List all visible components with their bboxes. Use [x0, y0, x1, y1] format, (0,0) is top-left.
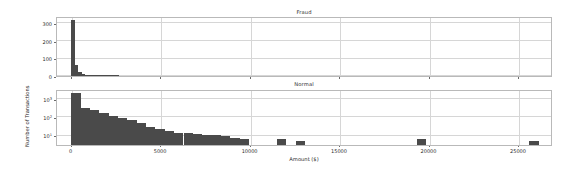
normal-ytick-label: 103 [30, 97, 52, 104]
histogram-bar [155, 129, 164, 145]
fraud-gridline-v [161, 18, 162, 76]
normal-axes [56, 90, 552, 146]
normal-xtick-label: 5000 [154, 148, 167, 154]
fraud-ytick-label: 300 [34, 21, 52, 27]
fraud-gridline-h [57, 75, 551, 76]
normal-xtick-mark [339, 146, 340, 148]
normal-xtick-mark [160, 146, 161, 148]
histogram-bar [212, 135, 221, 144]
fraud-gridline-v [340, 18, 341, 76]
fraud-gridline-h [57, 40, 551, 41]
fraud-gridline-h [57, 22, 551, 23]
fraud-gridline-v [251, 18, 252, 76]
histogram-bar [118, 118, 127, 145]
normal-xtick-label: 10000 [242, 148, 258, 154]
x-axis-label: Amount ($) [289, 156, 318, 162]
fraud-ytick-mark [54, 42, 56, 43]
histogram-figure: Fraud 0 100 200 300 Normal [0, 0, 567, 170]
histogram-bar [90, 110, 99, 144]
fraud-xtick-mark [339, 77, 340, 79]
normal-xtick-mark [71, 146, 72, 148]
fraud-axes [56, 17, 552, 77]
histogram-bar [137, 123, 146, 145]
histogram-bar [109, 116, 118, 145]
fraud-ytick-label: 200 [34, 39, 52, 45]
fraud-xtick-mark [71, 77, 72, 79]
fraud-subplot-title: Fraud [56, 9, 552, 15]
normal-xtick-label: 0 [69, 148, 72, 154]
fraud-ytick-mark [54, 59, 56, 60]
histogram-bar [81, 108, 90, 145]
histogram-bar [417, 139, 426, 144]
normal-gridline-h [57, 98, 551, 99]
normal-xtick-mark [518, 146, 519, 148]
normal-xtick-label: 20000 [421, 148, 437, 154]
histogram-bar [221, 136, 230, 145]
histogram-bar [99, 113, 108, 145]
fraud-gridline-h [57, 58, 551, 59]
normal-xtick-label: 15000 [331, 148, 347, 154]
normal-ytick-label: 101 [30, 133, 52, 140]
histogram-bar [146, 127, 155, 145]
fraud-xtick-mark [250, 77, 251, 79]
histogram-bar [202, 135, 211, 144]
histogram-bar [529, 141, 538, 145]
histogram-bar [277, 139, 286, 144]
histogram-bar [240, 139, 249, 144]
histogram-bar [296, 141, 305, 145]
histogram-bar [116, 75, 119, 76]
histogram-bar [71, 93, 80, 145]
fraud-gridline-v [519, 18, 520, 76]
fraud-ytick-label: 100 [34, 56, 52, 62]
histogram-bar [165, 131, 174, 145]
y-axis-label: Number of Transactions [24, 85, 30, 147]
normal-xtick-mark [250, 146, 251, 148]
histogram-bar [193, 134, 202, 144]
normal-xtick-label: 25000 [510, 148, 526, 154]
fraud-ytick-label: 0 [34, 74, 52, 80]
histogram-bar [184, 133, 193, 144]
fraud-xtick-mark [160, 77, 161, 79]
normal-xtick-mark [429, 146, 430, 148]
fraud-xtick-mark [429, 77, 430, 79]
normal-ytick-mark [54, 136, 56, 137]
fraud-ytick-mark [54, 77, 56, 78]
histogram-bar [174, 133, 183, 145]
histogram-bar [127, 120, 136, 145]
normal-gridline-h [57, 116, 551, 117]
histogram-bar [230, 138, 239, 145]
normal-ytick-label: 102 [30, 115, 52, 122]
fraud-ytick-mark [54, 24, 56, 25]
normal-ytick-mark [54, 100, 56, 101]
normal-subplot-title: Normal [56, 81, 552, 87]
fraud-gridline-v [430, 18, 431, 76]
fraud-xtick-mark [518, 77, 519, 79]
normal-ytick-mark [54, 118, 56, 119]
